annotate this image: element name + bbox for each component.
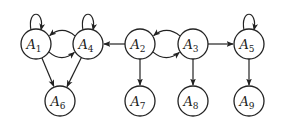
edge-A4-to-A6	[67, 57, 81, 86]
nodes-layer: A1A4A2A3A5A6A7A8A9	[21, 29, 264, 116]
node-A1: A1	[21, 29, 51, 59]
node-A4: A4	[73, 29, 103, 59]
edge-A1-to-A1	[30, 14, 41, 30]
edge-A4-to-A4	[82, 14, 93, 30]
node-A2: A2	[125, 29, 155, 59]
edge-A1-to-A6	[42, 58, 54, 86]
edge-A3-to-A2	[154, 30, 181, 36]
node-A5: A5	[234, 29, 264, 59]
edge-A1-to-A4	[49, 52, 75, 58]
edge-A2-to-A3	[153, 52, 180, 58]
directed-graph: A1A4A2A3A5A6A7A8A9	[0, 0, 281, 127]
node-A6: A6	[45, 86, 75, 116]
node-A8: A8	[178, 86, 208, 116]
node-A3: A3	[178, 29, 208, 59]
edge-A5-to-A5	[243, 14, 254, 30]
edge-A4-to-A1	[50, 30, 76, 36]
node-A7: A7	[125, 86, 155, 116]
node-A9: A9	[234, 86, 264, 116]
